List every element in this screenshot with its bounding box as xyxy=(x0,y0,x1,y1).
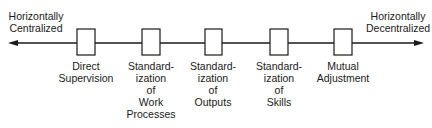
right-end-label: Horizontally Decentralized xyxy=(366,10,430,34)
left-end-label: Horizontally Centralized xyxy=(4,10,68,34)
left-end-line2: Centralized xyxy=(4,22,68,34)
mechanism-label-skills: Standard- ization of Skills xyxy=(244,60,314,108)
mechanism-box-outputs xyxy=(205,29,222,55)
mechanism-box-mutual-adjustment xyxy=(334,29,352,55)
right-arrow-icon xyxy=(414,40,424,46)
right-end-line1: Horizontally xyxy=(366,10,430,22)
coordination-continuum-diagram: Horizontally Centralized Horizontally De… xyxy=(0,0,432,128)
mechanism-label-direct-supervision: Direct Supervision xyxy=(51,60,121,84)
mechanism-label-mutual-adjustment: Mutual Adjustment xyxy=(308,60,378,84)
mechanism-label-outputs: Standard- ization of Outputs xyxy=(178,60,248,108)
mechanism-box-skills xyxy=(270,29,288,55)
mechanism-box-work-processes xyxy=(142,29,160,55)
left-arrow-icon xyxy=(8,40,18,46)
right-end-line2: Decentralized xyxy=(366,22,430,34)
mechanism-label-work-processes: Standard- ization of Work Processes xyxy=(116,60,186,120)
left-end-line1: Horizontally xyxy=(4,10,68,22)
mechanism-box-direct-supervision xyxy=(77,29,95,55)
